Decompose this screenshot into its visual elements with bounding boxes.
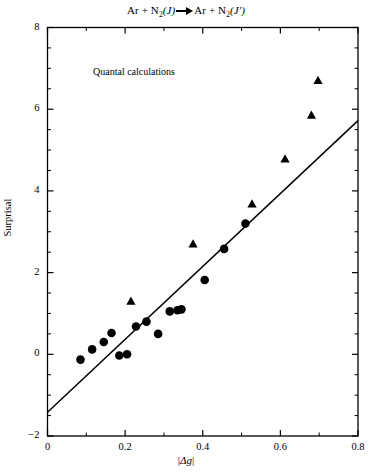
data-point-circle [99,338,108,347]
x-tick-label: 0.4 [183,442,223,452]
data-point-circle [76,355,85,364]
data-point-circle [154,330,163,339]
x-tick-label: 0.8 [338,442,372,452]
data-point-circle [177,305,186,314]
x-tick-label: 0.2 [105,442,145,452]
x-tick-label: 0 [28,442,68,452]
y-tick-label: 8 [14,22,40,32]
data-point-circle [123,350,132,359]
y-tick-label: −2 [14,430,40,440]
plot-frame [48,28,359,437]
y-tick-label: 6 [14,103,40,113]
plot-canvas [0,0,372,475]
y-tick-label: 0 [14,348,40,358]
data-point-circle [241,219,250,228]
linear-fit-line [48,121,359,413]
data-point-circle [200,276,209,285]
figure-container: Ar + N2(J)Ar + N2(J') Surprisal |Δg| Qua… [0,0,372,475]
data-point-circle [115,351,124,360]
data-point-circle [132,322,141,331]
data-point-triangle [188,239,197,247]
data-point-triangle [313,76,322,84]
y-tick-label: 4 [14,185,40,195]
data-point-triangle [247,199,256,207]
data-point-triangle [126,296,135,304]
data-point-circle [165,307,174,316]
x-tick-label: 0.6 [260,442,300,452]
data-point-circle [107,329,116,338]
data-point-triangle [307,111,316,119]
data-point-circle [142,317,151,326]
data-point-circle [88,345,97,354]
data-point-circle [220,245,229,254]
y-tick-label: 2 [14,267,40,277]
data-point-triangle [280,154,289,162]
